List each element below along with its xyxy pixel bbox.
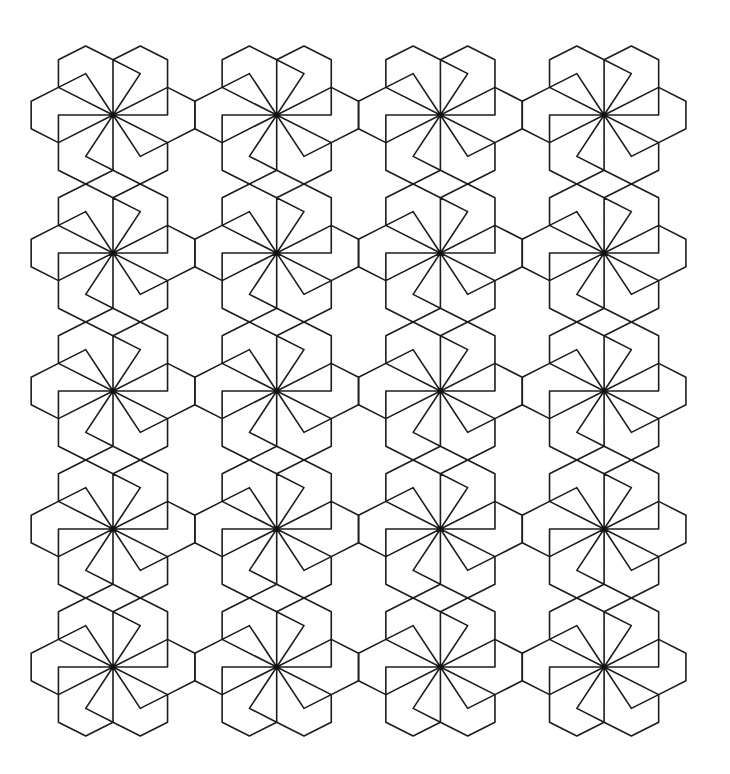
pinwheel-motif — [195, 598, 359, 736]
motif-hub-dot — [111, 251, 115, 255]
pinwheel-motif — [31, 598, 195, 736]
pinwheel-motif — [359, 460, 523, 598]
motif-hub-dot — [602, 113, 606, 117]
motif-hub-dot — [111, 389, 115, 393]
motif-hub-dot — [275, 113, 279, 117]
motif-hub-dot — [438, 527, 442, 531]
tessellation-svg — [0, 0, 730, 774]
pinwheel-motif — [522, 598, 686, 736]
motif-hub-dot — [111, 113, 115, 117]
pinwheel-motif — [195, 184, 359, 322]
pinwheel-motif — [359, 598, 523, 736]
pinwheel-motif — [359, 46, 523, 184]
pinwheel-motif — [31, 184, 195, 322]
pinwheel-motif — [359, 322, 523, 460]
motif-hub-dot — [275, 665, 279, 669]
motif-hub-dot — [602, 527, 606, 531]
pinwheel-motif — [195, 46, 359, 184]
pinwheel-motif — [31, 46, 195, 184]
motif-hub-dot — [275, 527, 279, 531]
pinwheel-motif — [359, 184, 523, 322]
motif-hub-dot — [111, 665, 115, 669]
pinwheel-motif — [195, 322, 359, 460]
motif-hub-dot — [275, 389, 279, 393]
pinwheel-motif — [522, 46, 686, 184]
pinwheel-motif — [195, 460, 359, 598]
motif-hub-dot — [602, 665, 606, 669]
motif-hub-dot — [275, 251, 279, 255]
motif-hub-dot — [111, 527, 115, 531]
motif-hub-dot — [438, 113, 442, 117]
pinwheel-motif — [522, 322, 686, 460]
motif-hub-dot — [602, 251, 606, 255]
motif-group — [31, 46, 686, 736]
motif-hub-dot — [438, 665, 442, 669]
pinwheel-motif — [31, 322, 195, 460]
pinwheel-motif — [31, 460, 195, 598]
motif-hub-dot — [602, 389, 606, 393]
pinwheel-motif — [522, 460, 686, 598]
motif-hub-dot — [438, 251, 442, 255]
pinwheel-motif — [522, 184, 686, 322]
pattern-canvas — [0, 0, 730, 774]
motif-hub-dot — [438, 389, 442, 393]
